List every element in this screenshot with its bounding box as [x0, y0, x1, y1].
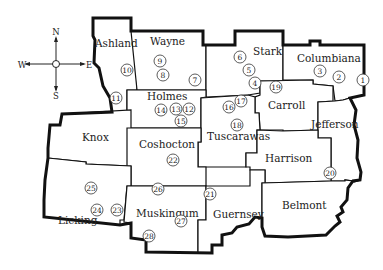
site-marker-18[interactable]: 18	[231, 119, 243, 131]
site-marker-10[interactable]: 10	[121, 64, 133, 76]
compass-south: S	[53, 91, 59, 101]
svg-text:5: 5	[247, 66, 252, 75]
label-guernsey: Guernsey	[213, 208, 264, 220]
label-knox: Knox	[82, 131, 109, 143]
site-marker-12[interactable]: 12	[183, 103, 195, 115]
label-harrison: Harrison	[265, 152, 313, 164]
site-marker-7[interactable]: 7	[189, 74, 201, 86]
svg-text:8: 8	[161, 71, 166, 80]
site-marker-20[interactable]: 20	[324, 167, 336, 179]
label-holmes: Holmes	[147, 90, 187, 102]
site-marker-14[interactable]: 14	[155, 104, 167, 116]
site-marker-16[interactable]: 16	[223, 101, 235, 113]
compass-west: W	[18, 60, 27, 70]
svg-text:28: 28	[144, 232, 154, 241]
svg-text:25: 25	[86, 184, 96, 193]
label-jefferson: Jefferson	[310, 118, 359, 130]
label-licking: Licking	[58, 214, 98, 226]
site-marker-15[interactable]: 15	[175, 115, 187, 127]
svg-text:12: 12	[184, 105, 194, 114]
site-marker-25[interactable]: 25	[85, 182, 97, 194]
svg-text:7: 7	[193, 76, 198, 85]
site-marker-22[interactable]: 22	[167, 154, 179, 166]
svg-text:13: 13	[171, 105, 181, 114]
county-muskingum[interactable]	[124, 186, 206, 253]
site-marker-13[interactable]: 13	[170, 103, 182, 115]
site-marker-8[interactable]: 8	[157, 69, 169, 81]
svg-text:17: 17	[236, 97, 246, 106]
label-muskingum: Muskingum	[136, 207, 199, 219]
label-stark: Stark	[253, 45, 283, 57]
svg-text:10: 10	[122, 66, 132, 75]
svg-text:21: 21	[205, 190, 215, 199]
site-marker-2[interactable]: 2	[333, 71, 345, 83]
svg-text:24: 24	[92, 206, 102, 215]
label-carroll: Carroll	[268, 99, 306, 111]
compass-east: E	[86, 60, 92, 70]
compass-north: N	[52, 27, 60, 37]
label-coshocton: Coshocton	[139, 138, 195, 150]
svg-text:1: 1	[361, 76, 366, 85]
svg-text:16: 16	[224, 103, 234, 112]
svg-text:14: 14	[156, 106, 166, 115]
svg-text:2: 2	[337, 73, 342, 82]
svg-text:20: 20	[325, 169, 335, 178]
site-marker-3[interactable]: 3	[314, 65, 326, 77]
site-marker-27[interactable]: 27	[175, 215, 187, 227]
label-ashland: Ashland	[94, 37, 138, 49]
svg-text:23: 23	[112, 206, 122, 215]
site-marker-4[interactable]: 4	[249, 77, 261, 89]
svg-text:11: 11	[111, 94, 121, 103]
compass-center-icon	[53, 61, 60, 68]
county-coshocton[interactable]	[127, 128, 206, 186]
site-marker-21[interactable]: 21	[204, 188, 216, 200]
label-tuscarawas: Tuscarawas	[207, 130, 270, 142]
svg-text:3: 3	[318, 67, 323, 76]
site-marker-11[interactable]: 11	[110, 92, 122, 104]
site-marker-6[interactable]: 6	[234, 51, 246, 63]
site-marker-17[interactable]: 17	[235, 95, 247, 107]
svg-text:22: 22	[168, 156, 178, 165]
svg-text:15: 15	[176, 117, 186, 126]
site-marker-23[interactable]: 23	[111, 204, 123, 216]
svg-text:27: 27	[176, 217, 186, 226]
site-marker-19[interactable]: 19	[270, 81, 282, 93]
svg-text:26: 26	[153, 185, 163, 194]
svg-text:18: 18	[232, 121, 242, 130]
site-marker-24[interactable]: 24	[91, 204, 103, 216]
site-marker-5[interactable]: 5	[243, 64, 255, 76]
label-wayne: Wayne	[150, 35, 185, 47]
svg-text:4: 4	[253, 79, 258, 88]
site-marker-9[interactable]: 9	[154, 55, 166, 67]
site-marker-28[interactable]: 28	[143, 230, 155, 242]
label-belmont: Belmont	[282, 199, 327, 211]
site-marker-1[interactable]: 1	[357, 74, 369, 86]
svg-text:6: 6	[238, 53, 243, 62]
site-marker-26[interactable]: 26	[152, 183, 164, 195]
compass-rose: N S W E	[18, 27, 92, 101]
svg-text:19: 19	[271, 83, 281, 92]
label-columbiana: Columbiana	[297, 52, 361, 64]
svg-text:9: 9	[158, 57, 163, 66]
county-map: N S W E	[0, 0, 383, 270]
